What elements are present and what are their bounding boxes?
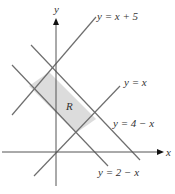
y-axis-arrow-icon [53, 18, 59, 25]
label-y-equals-x: y = x [123, 76, 147, 88]
diagram-canvas: y x R y = x + 5 y = x y = 4 − x y = 2 − … [0, 0, 175, 194]
label-y-equals-2-minus-x: y = 2 − x [97, 166, 139, 178]
line-y-equals-2-minus-x [12, 65, 108, 166]
x-axis-arrow-icon [157, 149, 164, 155]
x-axis-label: x [165, 146, 171, 158]
label-y-equals-x-plus-5: y = x + 5 [96, 10, 139, 22]
label-y-equals-4-minus-x: y = 4 − x [112, 117, 154, 129]
region-label: R [65, 100, 73, 112]
y-axis-label: y [53, 3, 59, 15]
region-diagram: y x R y = x + 5 y = x y = 4 − x y = 2 − … [0, 0, 175, 194]
